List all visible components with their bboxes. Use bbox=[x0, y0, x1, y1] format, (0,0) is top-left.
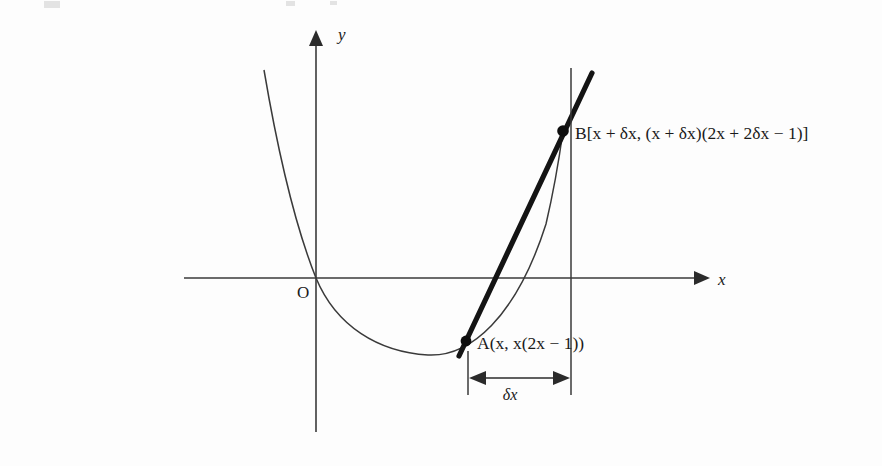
calculus-gradient-diagram: y x O A(x, x(2x − 1)) B[x + δx, (x + δx)… bbox=[0, 0, 882, 466]
point-marker-A bbox=[461, 336, 472, 347]
y-axis-arrowhead-icon bbox=[309, 30, 323, 46]
delta-x-right-arrowhead-icon bbox=[553, 371, 570, 385]
delta-x-left-arrowhead-icon bbox=[469, 371, 486, 385]
figure-container: y x O A(x, x(2x − 1)) B[x + δx, (x + δx)… bbox=[0, 0, 882, 466]
x-axis-arrowhead-icon bbox=[694, 271, 710, 285]
point-marker-B bbox=[557, 125, 569, 137]
delta-x-label: δx bbox=[503, 386, 518, 403]
x-axis-label: x bbox=[717, 270, 726, 289]
origin-label: O bbox=[297, 283, 309, 302]
y-axis-label: y bbox=[336, 25, 346, 44]
parabola-curve bbox=[264, 70, 563, 355]
secant-line-AB bbox=[459, 73, 592, 356]
point-a-label: A(x, x(2x − 1)) bbox=[477, 333, 584, 353]
point-b-label: B[x + δx, (x + δx)(2x + 2δx − 1)] bbox=[575, 123, 808, 143]
